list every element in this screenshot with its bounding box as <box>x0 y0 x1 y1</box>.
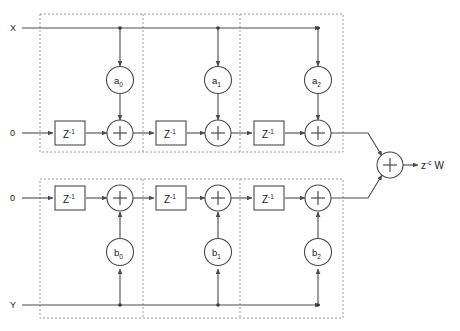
delay-bottom-1[interactable]: Z-1 <box>156 186 186 210</box>
adder-top-1[interactable] <box>205 120 231 146</box>
delay-bottom-0[interactable]: Z-1 <box>55 186 85 210</box>
delay-top-1[interactable]: Z-1 <box>156 121 186 145</box>
coef-b0[interactable]: b0 <box>107 239 134 266</box>
coef-circle <box>305 67 332 94</box>
junction-dot <box>216 303 220 307</box>
junction-dot <box>316 303 320 307</box>
junction-dot <box>118 303 122 307</box>
adder-bottom-2[interactable] <box>305 185 331 211</box>
x-input-label: X <box>10 23 16 33</box>
junction-dot <box>316 26 320 30</box>
zero-input-top-label: 0 <box>10 128 15 138</box>
adder-bottom-0[interactable] <box>107 185 133 211</box>
coef-circle <box>205 239 232 266</box>
coef-b1[interactable]: b1 <box>205 239 232 266</box>
coef-circle <box>305 239 332 266</box>
adder-output[interactable] <box>377 152 403 178</box>
coef-b2[interactable]: b2 <box>305 239 332 266</box>
delay-bottom-2[interactable]: Z-1 <box>254 186 284 210</box>
coef-a1[interactable]: a1 <box>205 67 232 94</box>
delay-top-0[interactable]: Z-1 <box>55 121 85 145</box>
coef-a0[interactable]: a0 <box>107 67 134 94</box>
adder-bottom-1[interactable] <box>205 185 231 211</box>
output-label: z-cW <box>421 159 444 171</box>
bottom-output-branch <box>331 175 382 198</box>
junction-dot <box>216 26 220 30</box>
coef-circle <box>205 67 232 94</box>
adder-top-0[interactable] <box>107 120 133 146</box>
coef-circle <box>107 67 134 94</box>
top-output-branch <box>331 133 382 156</box>
coef-a2[interactable]: a2 <box>305 67 332 94</box>
y-input-label: Y <box>10 300 16 310</box>
diagram-canvas: Z-1 Z-1 Z-1 Z-1 Z-1 <box>0 0 460 331</box>
delay-top-2[interactable]: Z-1 <box>254 121 284 145</box>
filter-block-diagram: Z-1 Z-1 Z-1 Z-1 Z-1 <box>0 0 460 331</box>
stage-boxes-group <box>40 14 343 318</box>
junction-dot <box>118 26 122 30</box>
zero-input-bottom-label: 0 <box>10 193 15 203</box>
coef-circle <box>107 239 134 266</box>
adder-top-2[interactable] <box>305 120 331 146</box>
